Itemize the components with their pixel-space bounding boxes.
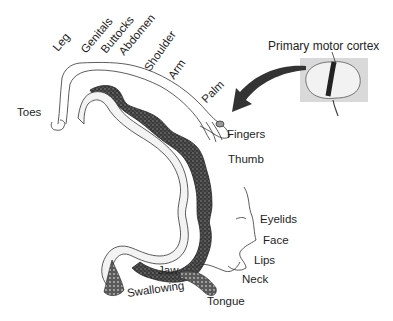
- label-eyelids: Eyelids: [260, 214, 297, 226]
- label-neck: Neck: [242, 274, 268, 286]
- label-face: Face: [263, 235, 289, 247]
- label-thumb: Thumb: [228, 154, 264, 166]
- tongue-shape: [180, 271, 216, 296]
- brain-inset: [300, 52, 368, 116]
- label-fingers: Fingers: [227, 129, 265, 141]
- curved-arrow-icon: [232, 66, 306, 112]
- cortex-strip: [78, 86, 212, 296]
- label-jaw: Jaw: [158, 265, 178, 277]
- label-tongue: Tongue: [207, 296, 245, 308]
- label-toes: Toes: [17, 107, 41, 119]
- title-primary-motor-cortex: Primary motor cortex: [268, 40, 379, 52]
- label-lips: Lips: [254, 255, 275, 267]
